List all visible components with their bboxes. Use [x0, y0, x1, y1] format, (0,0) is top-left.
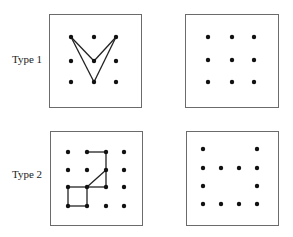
- grid-dot: [85, 204, 89, 208]
- grid-dot: [85, 185, 89, 189]
- grid-dot: [219, 166, 223, 170]
- grid-dot: [201, 147, 205, 151]
- grid-dot: [92, 80, 96, 84]
- connecting-line: [94, 37, 116, 61]
- grid-dot: [252, 80, 256, 84]
- grid-dot: [201, 202, 205, 206]
- grid-dot: [104, 150, 108, 154]
- grid-dot: [104, 185, 108, 189]
- panel-type2-dots-only: [187, 132, 279, 226]
- grid-dot: [230, 58, 234, 62]
- grid-dot: [237, 166, 241, 170]
- grid-dot: [122, 150, 126, 154]
- grid-dot: [122, 204, 126, 208]
- grid-dot: [201, 166, 205, 170]
- grid-dot: [122, 168, 126, 172]
- grid-dot: [104, 168, 108, 172]
- grid-dot: [66, 150, 70, 154]
- grid-dot: [85, 168, 89, 172]
- connecting-line: [71, 37, 94, 61]
- grid-dot: [69, 35, 73, 39]
- grid-dot: [206, 35, 210, 39]
- grid-dot: [252, 58, 256, 62]
- connecting-line: [87, 170, 106, 187]
- grid-dot: [114, 35, 118, 39]
- grid-dot: [252, 35, 256, 39]
- grid-dot: [255, 184, 259, 188]
- grid-dot: [206, 58, 210, 62]
- grid-dot: [66, 204, 70, 208]
- connecting-line: [94, 37, 116, 82]
- dot-pattern-figure: [0, 0, 293, 237]
- grid-dot: [122, 185, 126, 189]
- grid-dot: [230, 35, 234, 39]
- grid-dot: [114, 80, 118, 84]
- panel-type1-with-lines-content: [69, 35, 118, 84]
- panel-type2-dots-only-content: [201, 147, 259, 206]
- grid-dot: [85, 150, 89, 154]
- connecting-line: [71, 37, 94, 82]
- grid-dot: [114, 59, 118, 63]
- grid-dot: [206, 80, 210, 84]
- grid-dot: [104, 204, 108, 208]
- grid-dot: [219, 202, 223, 206]
- grid-dot: [201, 184, 205, 188]
- panel-type1-dots-only-content: [206, 35, 256, 84]
- grid-dot: [69, 59, 73, 63]
- grid-dot: [255, 202, 259, 206]
- grid-dot: [92, 59, 96, 63]
- grid-dot: [255, 147, 259, 151]
- grid-dot: [255, 166, 259, 170]
- panel-type2-with-lines-content: [66, 150, 126, 208]
- grid-dot: [66, 168, 70, 172]
- grid-dot: [92, 35, 96, 39]
- grid-dot: [66, 185, 70, 189]
- grid-dot: [69, 80, 73, 84]
- grid-dot: [230, 80, 234, 84]
- grid-dot: [237, 202, 241, 206]
